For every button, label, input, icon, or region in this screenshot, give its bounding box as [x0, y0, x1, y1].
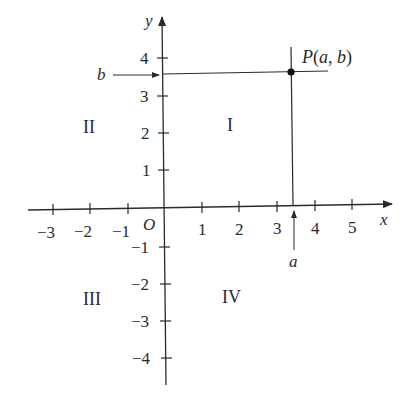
point-p — [287, 68, 294, 75]
y-tick-label: −3 — [131, 312, 149, 331]
y-tick-label: 3 — [140, 87, 149, 106]
x-tick-label: 5 — [348, 218, 357, 237]
a-label: a — [289, 252, 298, 271]
x-tick-label: 1 — [198, 220, 207, 239]
x-ticks — [53, 199, 352, 215]
x-axis-label: x — [379, 210, 388, 229]
x-tick-label: −2 — [74, 222, 92, 241]
x-tick-label: 3 — [273, 219, 282, 238]
point-p-label: P(a, b) — [301, 47, 352, 68]
y-tick-label: −1 — [131, 238, 149, 257]
x-tick-label: 2 — [235, 220, 244, 239]
coordinate-plane-figure: −3 −2 −1 1 2 3 4 5 4 3 2 1 −1 −2 −3 −4 y… — [0, 0, 416, 409]
y-tick-label: −2 — [131, 275, 149, 294]
quadrant-i-label: I — [227, 115, 233, 135]
b-label: b — [97, 65, 106, 84]
x-tick-labels: −3 −2 −1 1 2 3 4 5 — [37, 218, 357, 242]
quadrant-iii-label: III — [83, 289, 101, 309]
quadrant-iv-label: IV — [222, 287, 241, 307]
y-tick-label: −4 — [132, 349, 151, 368]
x-axis — [28, 204, 392, 210]
x-tick-label: −3 — [37, 223, 55, 242]
y-axis-label: y — [143, 11, 153, 30]
x-tick-label: 4 — [311, 219, 320, 238]
y-tick-label: 4 — [140, 49, 149, 68]
quadrant-ii-label: II — [83, 117, 95, 137]
y-axis — [162, 17, 166, 385]
y-tick-label: 1 — [142, 161, 151, 180]
x-tick-label: −1 — [112, 222, 130, 241]
coordinate-plane-svg: −3 −2 −1 1 2 3 4 5 4 3 2 1 −1 −2 −3 −4 y… — [0, 0, 416, 409]
horizontal-guide-line — [163, 71, 328, 74]
origin-label: O — [143, 215, 155, 234]
y-tick-label: 2 — [141, 124, 150, 143]
